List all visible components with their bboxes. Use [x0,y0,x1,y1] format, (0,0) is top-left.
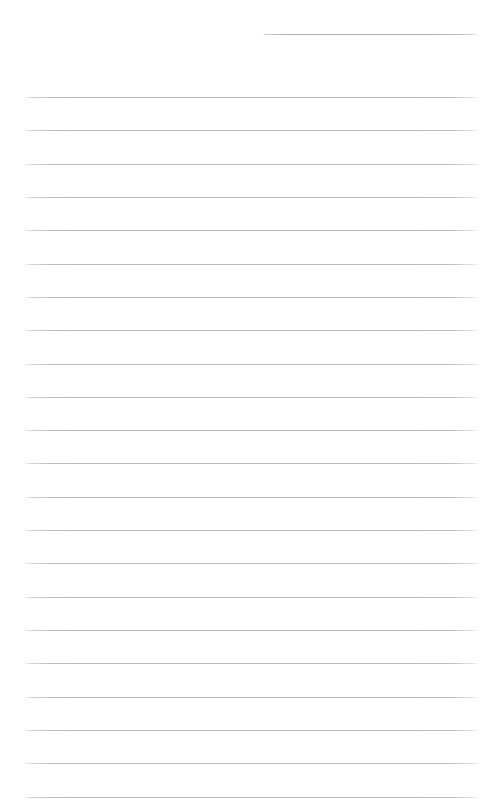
writing-row[interactable] [23,397,479,430]
writing-row[interactable] [23,530,479,563]
writing-row[interactable] [23,730,479,763]
writing-row[interactable] [23,630,479,663]
writing-row[interactable] [23,563,479,597]
writing-row[interactable] [23,297,479,330]
writing-row[interactable] [23,330,479,364]
title-rule [262,34,478,35]
writing-row[interactable] [23,164,479,197]
writing-row[interactable] [23,497,479,530]
writing-row[interactable] [23,197,479,230]
writing-row[interactable] [23,130,479,164]
writing-row[interactable] [23,763,479,797]
writing-row[interactable] [23,430,479,463]
rule-line [23,797,479,798]
writing-row[interactable] [23,364,479,397]
writing-row[interactable] [23,697,479,730]
writing-row[interactable] [23,64,479,97]
title-writing-slot[interactable] [262,12,478,34]
writing-row[interactable] [23,463,479,497]
writing-row[interactable] [23,264,479,297]
writing-row[interactable] [23,663,479,697]
ruled-paper-page [0,0,502,808]
writing-row[interactable] [23,97,479,130]
writing-row[interactable] [23,230,479,264]
writing-row[interactable] [23,597,479,630]
